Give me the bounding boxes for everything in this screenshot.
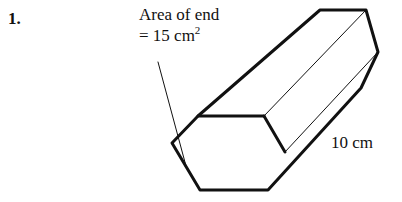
- hexagonal-prism-diagram: [0, 0, 402, 202]
- annotation-leader-line: [158, 62, 186, 166]
- prism-faces: [172, 10, 378, 190]
- worksheet-figure-page: 1. Area of end = 15 cm2 10 cm: [0, 0, 402, 202]
